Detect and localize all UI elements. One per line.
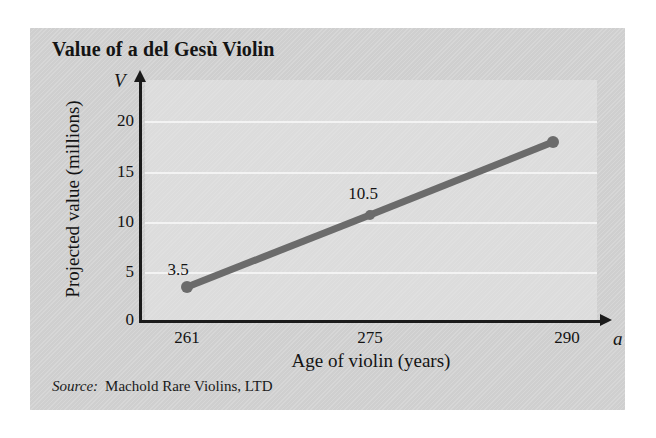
y-axis-line [139, 78, 142, 322]
x-axis-title: Age of violin (years) [145, 350, 597, 372]
x-axis-ticks: 261 275 290 [30, 328, 625, 352]
y-tick-label: 15 [94, 162, 134, 182]
gridline [145, 172, 597, 174]
data-point-label: 3.5 [167, 260, 188, 280]
source-line: Source:Machold Rare Violins, LTD [52, 378, 273, 395]
gridline [145, 222, 597, 224]
x-tick-label: 290 [554, 328, 580, 348]
y-tick-label: 10 [94, 212, 134, 232]
x-axis-arrow-icon [600, 314, 612, 326]
x-tick-label: 261 [174, 328, 200, 348]
y-tick-label: 20 [94, 111, 134, 131]
x-tick-label: 275 [357, 328, 383, 348]
y-axis-ticks: 20 15 10 5 0 [86, 28, 134, 410]
source-label: Source: [52, 378, 98, 394]
y-tick-label: 5 [94, 262, 134, 282]
gridline [145, 272, 597, 274]
data-point-label: 10.5 [348, 184, 378, 204]
gridline [145, 121, 597, 123]
y-axis-arrow-icon [134, 70, 146, 82]
source-text: Machold Rare Violins, LTD [105, 378, 272, 394]
x-axis-line [139, 320, 602, 323]
y-tick-label: 0 [94, 310, 134, 330]
y-axis-title: Projected value (millions) [62, 79, 84, 319]
figure-card: Value of a del Gesù Violin V a 20 15 10 … [30, 28, 625, 410]
